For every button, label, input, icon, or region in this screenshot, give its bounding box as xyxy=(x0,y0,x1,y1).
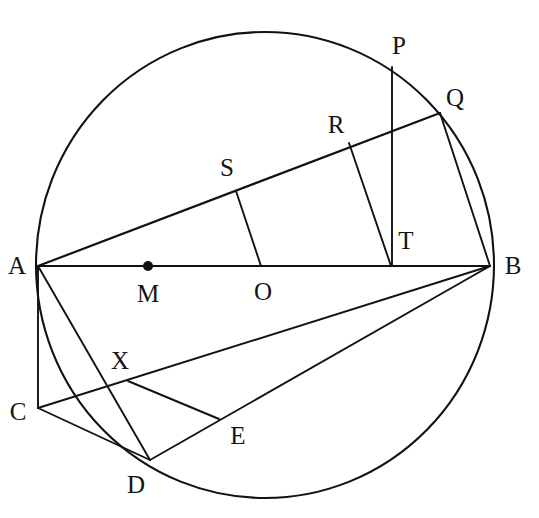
segment-CD xyxy=(38,408,150,460)
label-A: A xyxy=(8,253,26,278)
label-M: M xyxy=(137,281,159,306)
label-C: C xyxy=(10,399,27,424)
label-P: P xyxy=(392,33,406,58)
point-dot-M xyxy=(143,261,153,271)
label-S: S xyxy=(220,155,234,180)
label-E: E xyxy=(230,423,245,448)
segment-XE xyxy=(128,381,219,419)
segment-AQ xyxy=(38,113,440,266)
segment-DB xyxy=(150,266,490,460)
segment-RT xyxy=(349,143,391,266)
label-R: R xyxy=(328,112,345,137)
label-O: O xyxy=(254,279,272,304)
label-D: D xyxy=(127,472,145,497)
geometry-figure: P Q R S A M O T B X C E D xyxy=(0,0,539,518)
label-T: T xyxy=(398,228,413,253)
label-B: B xyxy=(505,253,522,278)
label-X: X xyxy=(111,348,129,373)
geometry-canvas xyxy=(0,0,539,518)
label-Q: Q xyxy=(446,85,464,110)
segment-SO xyxy=(236,191,261,266)
segment-AD xyxy=(38,266,150,460)
